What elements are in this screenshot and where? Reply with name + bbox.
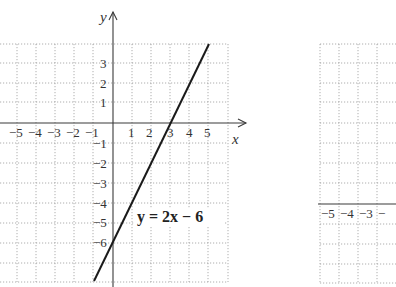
svg-text:2: 2 (146, 125, 153, 140)
x-axis-label: x (231, 131, 239, 147)
svg-text:−2: −2 (93, 156, 107, 171)
x-ticks-positive: 1 2 3 4 5 (128, 125, 211, 140)
svg-text:2: 2 (100, 76, 107, 91)
svg-text:−5: −5 (321, 206, 335, 221)
svg-text:−6: −6 (93, 235, 107, 250)
graph-canvas: y x −5 −4 −3 −2 −1 1 2 3 4 5 3 2 1 −1 −2… (0, 0, 396, 287)
svg-text:−4: −4 (93, 196, 107, 211)
x-ticks-negative: −5 −4 −3 −2 −1 (9, 125, 99, 140)
svg-text:1: 1 (128, 125, 135, 140)
y-ticks-negative: −1 −2 −3 −4 −5 −6 (93, 136, 107, 250)
svg-text:−: − (378, 206, 385, 221)
svg-text:−4: −4 (340, 206, 354, 221)
equation-label: y = 2x − 6 (137, 208, 203, 226)
svg-text:−3: −3 (47, 125, 61, 140)
right-x-ticks: −5 −4 −3 − (321, 206, 385, 221)
svg-text:−2: −2 (66, 125, 80, 140)
svg-text:1: 1 (100, 95, 107, 110)
left-grid (0, 44, 228, 282)
svg-text:−4: −4 (28, 125, 42, 140)
svg-text:5: 5 (204, 125, 211, 140)
svg-text:4: 4 (186, 125, 193, 140)
right-grid (320, 44, 396, 283)
y-axis-label: y (98, 9, 107, 25)
equation-line (94, 44, 209, 281)
svg-text:3: 3 (100, 56, 107, 71)
svg-text:−3: −3 (359, 206, 373, 221)
svg-text:−1: −1 (93, 136, 107, 151)
y-ticks-positive: 3 2 1 (100, 56, 107, 110)
svg-text:−5: −5 (93, 215, 107, 230)
svg-text:−5: −5 (9, 125, 23, 140)
svg-text:−3: −3 (93, 176, 107, 191)
svg-text:3: 3 (167, 125, 174, 140)
